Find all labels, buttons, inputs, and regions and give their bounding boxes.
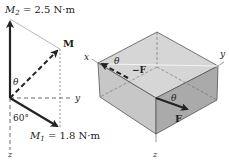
angle-label: 60° bbox=[13, 113, 29, 123]
resultant-label: M bbox=[63, 38, 74, 49]
y-axis-stub bbox=[218, 62, 224, 66]
figure: M2 = 2.5 N·m M θ 60° y z M1 = 1.8 N·m x … bbox=[0, 0, 229, 162]
box-diagram: x y z θ −F θ F bbox=[84, 32, 226, 159]
vector-diagram: M2 = 2.5 N·m M θ 60° y z M1 = 1.8 N·m bbox=[4, 4, 100, 159]
theta-top-label: θ bbox=[114, 56, 120, 66]
x-axis-label: x bbox=[84, 52, 89, 62]
x-axis-stub bbox=[92, 59, 98, 63]
neg-force-label: −F bbox=[132, 65, 147, 75]
m2-label: M2 = 2.5 N·m bbox=[4, 4, 75, 17]
force-label: F bbox=[175, 113, 182, 124]
y-axis-label: y bbox=[219, 49, 226, 59]
z-axis-label: z bbox=[7, 150, 13, 159]
construction-line-top bbox=[10, 19, 60, 49]
y-axis-label: y bbox=[74, 93, 81, 103]
z-axis-label: z bbox=[152, 150, 158, 159]
theta-label: θ bbox=[13, 77, 19, 87]
moment-diagram: M2 = 2.5 N·m M θ 60° y z M1 = 1.8 N·m x … bbox=[0, 0, 229, 162]
m1-label: M1 = 1.8 N·m bbox=[29, 130, 100, 143]
resultant-vector bbox=[10, 51, 57, 98]
theta-front-label: θ bbox=[171, 93, 177, 103]
